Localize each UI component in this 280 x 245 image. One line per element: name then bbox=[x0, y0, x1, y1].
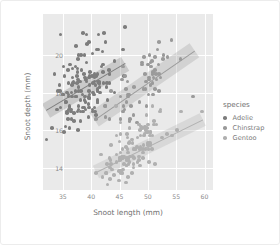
data-point bbox=[96, 100, 100, 104]
data-point bbox=[98, 85, 102, 89]
data-point bbox=[87, 115, 91, 119]
y-tick-label: 16 bbox=[33, 127, 63, 134]
data-point bbox=[117, 179, 121, 183]
data-point bbox=[154, 72, 158, 76]
data-point bbox=[132, 85, 136, 89]
data-point bbox=[165, 132, 169, 136]
data-point bbox=[126, 151, 130, 155]
data-point bbox=[139, 134, 143, 138]
data-point bbox=[200, 110, 204, 114]
data-point bbox=[105, 85, 109, 89]
data-point bbox=[94, 171, 98, 175]
data-point bbox=[124, 87, 128, 91]
data-point bbox=[148, 53, 152, 57]
data-point bbox=[141, 156, 145, 160]
data-point bbox=[126, 147, 130, 151]
data-point bbox=[108, 81, 112, 85]
data-point bbox=[109, 89, 113, 93]
data-point bbox=[144, 87, 148, 91]
data-point bbox=[132, 113, 136, 117]
data-point bbox=[121, 147, 125, 151]
legend-marker-icon bbox=[223, 136, 227, 140]
data-point bbox=[59, 106, 63, 110]
legend-entry-adelie[interactable]: Adelie bbox=[221, 113, 264, 123]
data-point bbox=[66, 117, 70, 121]
data-point bbox=[141, 151, 145, 155]
data-point bbox=[106, 183, 110, 187]
data-point bbox=[161, 57, 165, 61]
data-point bbox=[179, 57, 183, 61]
data-point bbox=[63, 74, 67, 78]
data-point bbox=[125, 164, 129, 168]
legend-entry-chinstrap[interactable]: Chinstrap bbox=[221, 123, 264, 133]
data-point bbox=[130, 138, 134, 142]
data-point bbox=[130, 171, 134, 175]
legend: species AdelieChinstrapGentoo bbox=[221, 100, 264, 143]
data-point bbox=[55, 108, 59, 112]
data-point bbox=[119, 132, 123, 136]
data-point bbox=[155, 123, 159, 127]
x-axis-title: Snoot length (mm) bbox=[43, 208, 213, 217]
data-point bbox=[157, 40, 161, 44]
data-point bbox=[119, 95, 123, 99]
data-point bbox=[71, 76, 75, 80]
data-point bbox=[94, 117, 98, 121]
data-point bbox=[128, 119, 132, 123]
data-point bbox=[99, 153, 103, 157]
data-point bbox=[150, 59, 154, 63]
data-point bbox=[85, 33, 89, 37]
data-point bbox=[126, 80, 130, 84]
data-point bbox=[159, 76, 163, 80]
data-point bbox=[101, 50, 105, 54]
data-point bbox=[77, 104, 81, 108]
data-point bbox=[108, 177, 112, 181]
data-point bbox=[108, 117, 112, 121]
data-point bbox=[121, 65, 125, 69]
data-point bbox=[120, 78, 124, 82]
data-point bbox=[128, 126, 132, 130]
data-point bbox=[135, 145, 139, 149]
y-tick-label: 18 bbox=[33, 89, 63, 96]
data-point bbox=[106, 98, 110, 102]
data-point bbox=[45, 138, 49, 142]
data-point bbox=[91, 52, 95, 56]
data-point bbox=[157, 89, 161, 93]
data-point bbox=[122, 104, 126, 108]
data-point bbox=[153, 55, 157, 59]
data-point bbox=[85, 61, 89, 65]
data-point bbox=[65, 91, 69, 95]
data-point bbox=[53, 72, 57, 76]
data-point bbox=[122, 110, 126, 114]
data-point bbox=[179, 110, 183, 114]
data-point bbox=[126, 175, 130, 179]
data-point bbox=[92, 93, 96, 97]
data-point bbox=[124, 181, 128, 185]
data-point bbox=[170, 38, 174, 42]
data-point bbox=[153, 162, 157, 166]
data-point bbox=[75, 74, 79, 78]
data-point bbox=[102, 63, 106, 67]
x-tick-label: 45 bbox=[105, 193, 135, 200]
data-point bbox=[70, 91, 74, 95]
data-point bbox=[121, 156, 125, 160]
legend-title: species bbox=[223, 100, 264, 109]
legend-entry-label: Adelie bbox=[233, 114, 253, 122]
data-point bbox=[145, 113, 149, 117]
data-point bbox=[147, 78, 151, 82]
data-point bbox=[126, 136, 130, 140]
legend-entry-gentoo[interactable]: Gentoo bbox=[221, 133, 264, 143]
data-point bbox=[119, 121, 123, 125]
x-tick-label: 35 bbox=[48, 193, 78, 200]
data-point bbox=[160, 136, 164, 140]
data-point bbox=[75, 81, 79, 85]
data-point bbox=[137, 158, 141, 162]
data-point bbox=[151, 72, 155, 76]
data-point bbox=[93, 72, 97, 76]
data-point bbox=[151, 104, 155, 108]
data-point bbox=[147, 93, 151, 97]
data-point bbox=[114, 104, 118, 108]
data-point bbox=[113, 91, 117, 95]
data-point bbox=[121, 48, 125, 52]
data-point bbox=[119, 151, 123, 155]
data-point bbox=[108, 72, 112, 76]
